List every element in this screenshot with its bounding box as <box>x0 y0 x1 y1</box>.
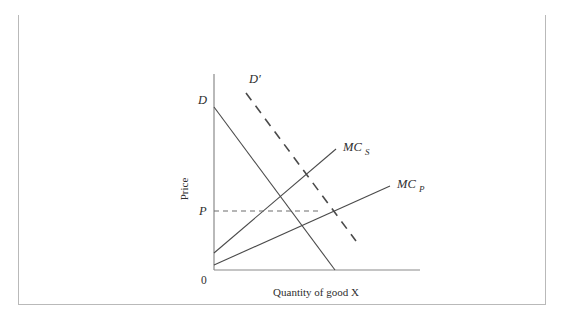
label-marginal-social-cost-subscript: S <box>365 147 370 157</box>
label-price-level: P <box>198 204 207 218</box>
chart-area: D D′ MC S MC P P 0 Price Quantity of goo… <box>18 41 546 305</box>
label-origin: 0 <box>201 274 207 286</box>
label-demand-d-prime: D′ <box>248 72 261 86</box>
label-marginal-social-cost: MC <box>342 140 362 154</box>
label-marginal-private-cost: MC <box>396 177 416 191</box>
y-axis-title: Price <box>178 178 190 201</box>
label-marginal-private-cost-subscript: P <box>418 184 425 194</box>
marginal-private-cost-curve <box>214 186 390 265</box>
label-demand-d: D <box>197 93 207 107</box>
pollution-externalities-chart: D D′ MC S MC P P 0 Price Quantity of goo… <box>18 41 546 305</box>
x-axis-title: Quantity of good X <box>273 286 359 298</box>
demand-curve-d-prime <box>246 93 356 241</box>
